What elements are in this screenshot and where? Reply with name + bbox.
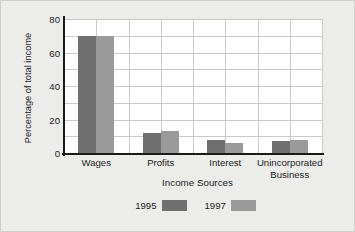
bar-group xyxy=(207,19,243,153)
y-axis-tick-label: 60 xyxy=(49,47,60,58)
y-axis-tick-label: 80 xyxy=(49,14,60,25)
category-label-interest: Interest xyxy=(209,157,241,169)
bar-group xyxy=(143,19,179,153)
y-axis-tick-label: 40 xyxy=(49,81,60,92)
category-label-wages: Wages xyxy=(81,157,111,169)
bar-group xyxy=(272,19,308,153)
gridline-vertical xyxy=(322,19,323,153)
bar-series-container xyxy=(64,19,322,153)
bar-group xyxy=(78,19,114,153)
bar-wages-1995[interactable] xyxy=(78,36,96,153)
bar-unincorporated-business-1997[interactable] xyxy=(290,140,308,153)
bar-unincorporated-business-1995[interactable] xyxy=(272,141,290,153)
y-axis-title-text: Percentage of total income xyxy=(23,33,33,144)
y-axis-tick-label: 20 xyxy=(49,114,60,125)
x-axis-line xyxy=(62,153,324,155)
bar-chart-figure: Percentage of total income 020406080 Wag… xyxy=(0,0,355,232)
legend-label: 1997 xyxy=(205,200,226,211)
legend-item-1997[interactable]: 1997 xyxy=(205,200,256,211)
category-label-profits: Profits xyxy=(147,157,174,169)
bar-interest-1995[interactable] xyxy=(207,140,225,153)
bar-wages-1997[interactable] xyxy=(96,36,114,153)
legend-swatch xyxy=(231,200,256,211)
x-axis-title: Income Sources xyxy=(1,177,354,188)
bar-profits-1995[interactable] xyxy=(143,133,161,153)
legend-item-1995[interactable]: 1995 xyxy=(135,200,186,211)
bar-profits-1997[interactable] xyxy=(161,131,179,153)
bar-interest-1997[interactable] xyxy=(225,143,243,153)
chart-legend: 19951997 xyxy=(1,200,354,211)
y-axis-title: Percentage of total income xyxy=(21,17,35,159)
y-axis-tick-label: 0 xyxy=(55,148,60,159)
legend-label: 1995 xyxy=(135,200,156,211)
legend-swatch xyxy=(162,200,187,211)
y-axis-tick-labels: 020406080 xyxy=(37,19,60,153)
